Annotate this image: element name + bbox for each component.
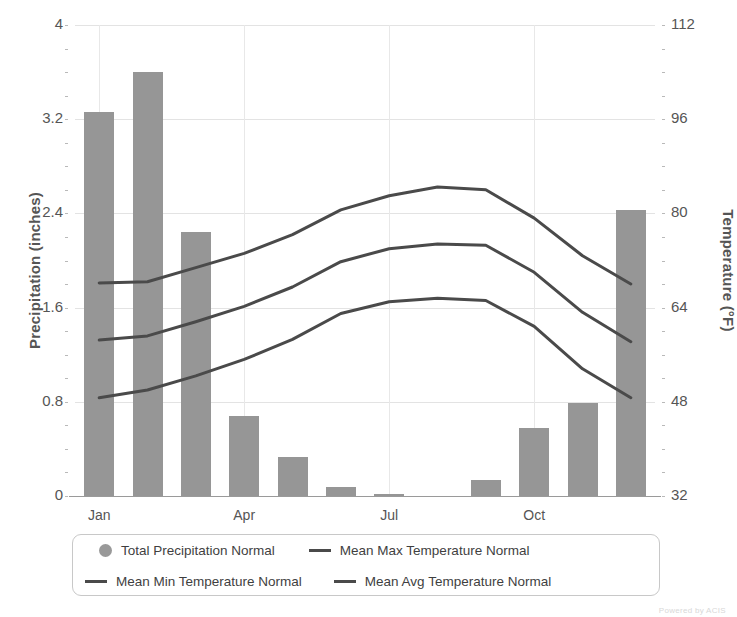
axis-minor-tick [662,284,665,285]
y-axis-right-tick-label: 48 [671,392,717,409]
legend-item-total-precipitation-normal[interactable]: Total Precipitation Normal [99,543,275,558]
y-axis-left-tick-label: 4 [17,15,63,32]
chart-legend: Total Precipitation Normal Mean Max Temp… [72,534,660,596]
axis-minor-tick [65,261,68,262]
y-axis-left-tick-label: 0 [17,486,63,503]
watermark: Powered by ACIS [659,606,726,615]
axis-minor-tick [65,96,68,97]
axis-minor-tick [662,496,665,497]
y-axis-right-tick-label: 64 [671,298,717,315]
y-axis-right-tick-label: 112 [671,15,717,32]
axis-minor-tick [65,308,68,309]
y-axis-right-tick-label: 32 [671,486,717,503]
legend-item-mean-max-temperature-normal[interactable]: Mean Max Temperature Normal [309,543,530,558]
temperature-line-series [75,25,655,496]
axis-minor-tick [65,190,68,191]
axis-minor-tick [662,355,665,356]
y-axis-right-tick-label: 80 [671,203,717,220]
axis-minor-tick [65,378,68,379]
y-axis-left-tick-label: 1.6 [17,298,63,315]
axis-minor-tick [65,49,68,50]
axis-minor-tick [662,308,665,309]
y-axis-left-tick-label: 2.4 [17,203,63,220]
y-axis-left-tick-label: 0.8 [17,392,63,409]
axis-minor-tick [662,331,665,332]
legend-label: Total Precipitation Normal [121,543,275,558]
axis-minor-tick [65,72,68,73]
axis-minor-tick [65,449,68,450]
axis-minor-tick [662,213,665,214]
y-axis-left-tick-label: 3.2 [17,109,63,126]
axis-minor-tick [662,237,665,238]
axis-minor-tick [662,449,665,450]
legend-label: Mean Min Temperature Normal [116,574,302,589]
axis-minor-tick [65,213,68,214]
axis-minor-tick [662,72,665,73]
axis-minor-tick [662,425,665,426]
axis-minor-tick [662,143,665,144]
axis-minor-tick [662,96,665,97]
y-axis-right-tick-label: 96 [671,109,717,126]
axis-minor-tick [65,402,68,403]
axis-minor-tick [662,119,665,120]
line-mean-min-temperature-normal [99,298,631,398]
x-axis-tick-label: Jul [359,507,419,523]
line-mean-max-temperature-normal [99,187,631,284]
legend-item-mean-min-temperature-normal[interactable]: Mean Min Temperature Normal [85,574,302,589]
axis-minor-tick [662,402,665,403]
corner-mark [2,593,5,603]
plot-area [75,25,655,496]
y-axis-right-title: Temperature (°F) [720,151,737,391]
legend-label: Mean Avg Temperature Normal [365,574,551,589]
axis-minor-tick [662,25,665,26]
circle-marker-icon [99,544,112,557]
axis-minor-tick [65,496,68,497]
x-axis-tick-label: Apr [214,507,274,523]
legend-row-1: Total Precipitation Normal Mean Max Temp… [73,535,659,566]
line-mean-avg-temperature-normal [99,244,631,342]
legend-label: Mean Max Temperature Normal [340,543,530,558]
line-marker-icon [85,580,107,583]
axis-minor-tick [65,331,68,332]
axis-minor-tick [65,472,68,473]
axis-minor-tick [662,472,665,473]
axis-minor-tick [662,261,665,262]
y-axis-left-title: Precipitation (inches) [26,151,43,391]
legend-item-mean-avg-temperature-normal[interactable]: Mean Avg Temperature Normal [334,574,551,589]
x-axis-tick-label: Oct [504,507,564,523]
axis-minor-tick [65,237,68,238]
line-marker-icon [309,549,331,552]
axis-minor-tick [65,425,68,426]
axis-minor-tick [65,119,68,120]
x-axis-line [69,496,661,497]
x-axis-tick-label: Jan [69,507,129,523]
axis-minor-tick [65,25,68,26]
line-marker-icon [334,580,356,583]
axis-minor-tick [65,355,68,356]
axis-minor-tick [662,378,665,379]
legend-row-2: Mean Min Temperature Normal Mean Avg Tem… [73,566,659,597]
axis-minor-tick [65,143,68,144]
axis-minor-tick [662,166,665,167]
axis-minor-tick [65,284,68,285]
axis-minor-tick [65,166,68,167]
axis-minor-tick [662,49,665,50]
axis-minor-tick [662,190,665,191]
